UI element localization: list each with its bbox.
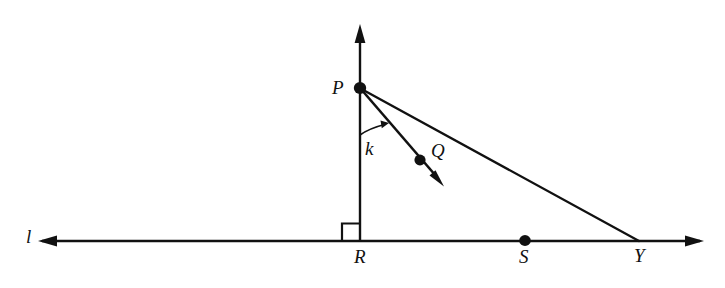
point-marker-Q	[414, 155, 425, 166]
diagram-background	[0, 0, 725, 288]
label-point-y: Y	[634, 246, 645, 265]
label-point-p: P	[332, 78, 344, 97]
label-point-s: S	[519, 247, 529, 266]
label-point-q: Q	[431, 141, 445, 160]
point-marker-S	[519, 235, 531, 246]
point-marker-P	[354, 82, 366, 94]
label-angle-k: k	[365, 139, 373, 158]
geometry-diagram	[0, 0, 725, 288]
label-line-l: l	[26, 227, 31, 246]
label-point-r: R	[354, 247, 366, 266]
